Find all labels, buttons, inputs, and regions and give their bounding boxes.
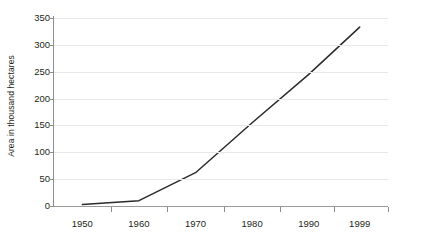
x-tick-mark [334, 207, 335, 212]
x-tick-mark [111, 207, 112, 212]
x-tick-label: 1970 [185, 218, 206, 229]
x-tick-mark [167, 207, 168, 212]
y-tick-label: 0 [20, 201, 50, 211]
series-line-chart [54, 18, 388, 206]
gridline [54, 18, 388, 19]
y-tick-label: 100 [20, 147, 50, 157]
gridline [54, 99, 388, 100]
y-tick-mark [49, 45, 54, 46]
x-axis-baseline [54, 206, 388, 207]
gridline [54, 45, 388, 46]
gridline [54, 72, 388, 73]
y-tick-label: 150 [20, 120, 50, 130]
x-tick-label: 1999 [349, 218, 370, 229]
gridline [54, 179, 388, 180]
x-tick-label: 1990 [298, 218, 319, 229]
x-tick-label: 1960 [128, 218, 149, 229]
y-tick-mark [49, 125, 54, 126]
x-tick-mark [388, 207, 389, 212]
y-tick-label: 200 [20, 94, 50, 104]
y-tick-label: 300 [20, 40, 50, 50]
y-tick-mark [49, 152, 54, 153]
x-tick-mark [280, 207, 281, 212]
gridline [54, 125, 388, 126]
x-tick-label: 1980 [242, 218, 263, 229]
y-tick-label: 350 [20, 13, 50, 23]
x-tick-mark [224, 207, 225, 212]
y-axis-title-text: Area in thousand hectares [6, 55, 16, 157]
series-line-area-in-thousand-hectares [82, 27, 359, 204]
x-tick-label: 1950 [72, 218, 93, 229]
y-axis-title: Area in thousand hectares [0, 0, 22, 212]
gridline [54, 152, 388, 153]
y-tick-mark [49, 99, 54, 100]
y-axis-tick-labels: 050100150200250300350 [20, 0, 50, 212]
y-tick-mark [49, 206, 54, 207]
line-chart-figure: Area in thousand hectares 05010015020025… [0, 0, 426, 246]
y-tick-mark [49, 18, 54, 19]
plot-area [54, 18, 388, 206]
y-tick-mark [49, 72, 54, 73]
y-tick-label: 50 [20, 174, 50, 184]
y-tick-mark [49, 179, 54, 180]
y-tick-label: 250 [20, 67, 50, 77]
